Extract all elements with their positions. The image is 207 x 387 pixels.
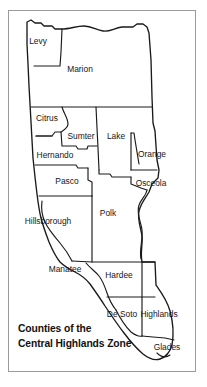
- county-label-citrus: Citrus: [36, 113, 58, 123]
- map-title-line-1: Counties of the: [18, 322, 178, 337]
- county-label-polk: Polk: [100, 208, 117, 218]
- county-label-desoto: De Soto: [107, 309, 138, 319]
- county-label-hillsborough: Hillsborough: [25, 216, 72, 226]
- county-label-osceola: Osceola: [136, 178, 167, 188]
- county-label-marion: Marion: [67, 64, 93, 74]
- county-label-highlands: Highlands: [140, 309, 177, 319]
- county-map-figure: Levy Marion Citrus Sumter Lake Hernando …: [0, 0, 207, 387]
- county-label-orange: Orange: [138, 149, 166, 159]
- county-label-lake: Lake: [107, 131, 126, 141]
- county-label-sumter: Sumter: [68, 131, 95, 141]
- county-label-manatee: Manatee: [49, 264, 82, 274]
- county-label-pasco: Pasco: [55, 176, 79, 186]
- county-label-hernando: Hernando: [37, 150, 74, 160]
- county-label-levy: Levy: [29, 36, 48, 46]
- map-title-line-2: Central Highlands Zone: [18, 337, 178, 352]
- county-label-hardee: Hardee: [105, 270, 133, 280]
- map-title: Counties of the Central Highlands Zone: [18, 322, 178, 351]
